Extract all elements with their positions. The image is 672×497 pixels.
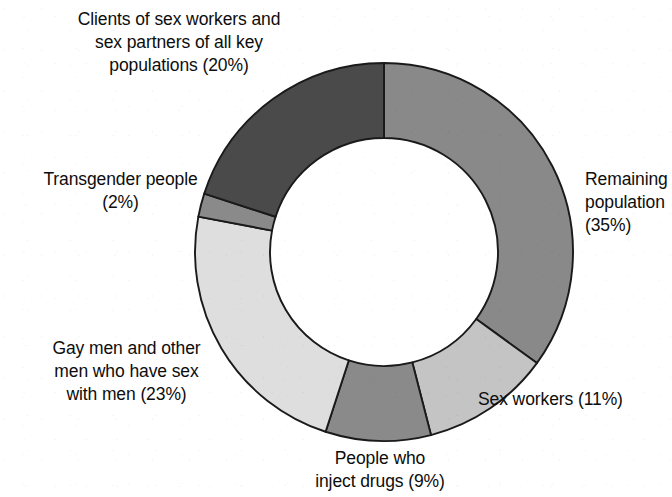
donut-slice-group <box>195 63 573 441</box>
slice-label-sex-workers: Sex workers (11%) <box>478 388 668 411</box>
slice-label-clients-of-sex-workers: Clients of sex workers and sex partners … <box>14 8 344 77</box>
slice-label-transgender-people: Transgender people (2%) <box>8 168 233 214</box>
donut-slice <box>384 63 573 363</box>
slice-label-remaining-population: Remaining population (35%) <box>585 168 671 237</box>
slice-label-gay-men-and-other-men: Gay men and other men who have sex with … <box>14 337 239 406</box>
donut-chart: Clients of sex workers and sex partners … <box>0 0 672 497</box>
slice-label-people-who-inject-drugs: People who inject drugs (9%) <box>280 447 480 493</box>
